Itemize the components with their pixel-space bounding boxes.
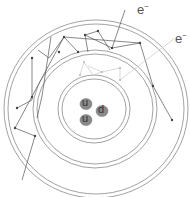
electron-label-2: e− — [175, 31, 187, 46]
quark-label-d: d — [98, 103, 104, 115]
quark-label-u2: u — [82, 112, 88, 124]
outer-shell-outer — [4, 20, 188, 197]
outer-shell-inner — [8, 24, 184, 194]
shells — [4, 20, 188, 197]
middle-shell-inner — [37, 54, 153, 164]
proton-scattering-diagram: u d u e− e− — [0, 0, 190, 197]
charge-symbol: − — [144, 2, 149, 11]
middle-shell-outer — [33, 50, 157, 168]
inner-shell-inner — [62, 79, 126, 139]
inner-shell-outer — [58, 75, 130, 143]
quark-label-u1: u — [82, 96, 88, 108]
charge-symbol: − — [182, 31, 187, 40]
diagram-canvas — [0, 0, 190, 197]
electron-label-1: e− — [137, 2, 149, 17]
scatter-points-dark — [14, 30, 173, 137]
